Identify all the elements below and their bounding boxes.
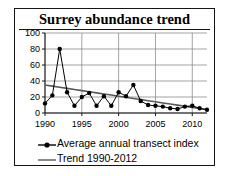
svg-text:2010: 2010	[182, 119, 202, 129]
grid-lines	[45, 33, 207, 113]
svg-text:1995: 1995	[72, 119, 92, 129]
svg-text:2000: 2000	[109, 119, 129, 129]
chart-figure: Surrey abundance trend 020406080100 1990…	[14, 8, 215, 166]
x-axis-tick-labels: 19901995200020052010	[35, 119, 202, 129]
svg-text:0: 0	[35, 108, 40, 118]
axis-lines	[45, 33, 207, 113]
line-key-icon	[37, 152, 57, 164]
svg-text:60: 60	[30, 60, 40, 70]
legend-label-trend: Trend 1990-2012	[57, 152, 137, 164]
svg-text:20: 20	[30, 92, 40, 102]
svg-text:1990: 1990	[35, 119, 55, 129]
legend-item-trend: Trend 1990-2012	[37, 150, 212, 165]
svg-text:80: 80	[30, 44, 40, 54]
legend-label-average-annual-transect-index: Average annual transect index	[57, 137, 199, 149]
svg-text:40: 40	[30, 76, 40, 86]
svg-text:100: 100	[25, 28, 40, 38]
series-average-annual-transect-index	[45, 49, 207, 110]
chart-legend: Average annual transect index Trend 1990…	[37, 135, 212, 165]
legend-item-average-annual-transect-index: Average annual transect index	[37, 135, 212, 150]
y-axis-tick-labels: 020406080100	[25, 28, 40, 118]
series-index-markers	[43, 47, 209, 112]
svg-text:2005: 2005	[145, 119, 165, 129]
line-marker-key-icon	[37, 137, 57, 149]
